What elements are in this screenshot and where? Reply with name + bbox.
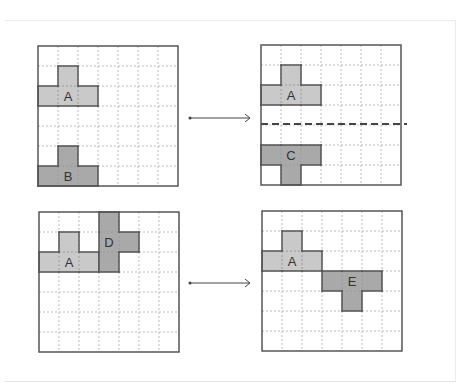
shape-label: C xyxy=(286,148,295,163)
panel-top-left: AB xyxy=(38,46,178,186)
shape-cell xyxy=(38,166,58,186)
transformation-diagram: AB AC AD AE xyxy=(0,0,470,391)
shape-cell xyxy=(262,251,282,271)
shape-cell xyxy=(302,251,322,271)
shape-cell xyxy=(99,212,119,232)
shape-cell xyxy=(301,85,321,105)
panel-bottom-right: AE xyxy=(262,211,402,351)
shape-label: D xyxy=(104,235,113,250)
shape-cell xyxy=(78,86,98,106)
panel-top-right: AC xyxy=(261,45,407,185)
shape-cell xyxy=(78,166,98,186)
shape-label: B xyxy=(64,169,73,184)
arrow-right-icon xyxy=(189,279,251,287)
shape-cell xyxy=(38,86,58,106)
shape-cell xyxy=(58,146,78,166)
shape-label: A xyxy=(288,254,297,269)
shape-cell xyxy=(342,291,362,311)
shape-cell xyxy=(281,165,301,185)
shape-cell xyxy=(261,85,281,105)
arrow-right-icon xyxy=(189,114,251,122)
shape-cell xyxy=(322,271,342,291)
shape-cell xyxy=(59,232,79,252)
arrows xyxy=(189,114,251,287)
shape-cell xyxy=(281,65,301,85)
shape-label: E xyxy=(348,274,357,289)
shape-cell xyxy=(58,66,78,86)
shape-cell xyxy=(362,271,382,291)
shape-label: A xyxy=(65,255,74,270)
panel-bottom-left: AD xyxy=(39,212,179,352)
shape-cell xyxy=(261,145,281,165)
shape-label: A xyxy=(64,89,73,104)
shape-cell xyxy=(99,252,119,272)
shape-cell xyxy=(39,252,59,272)
shape-cell xyxy=(282,231,302,251)
shape-label: A xyxy=(287,88,296,103)
shape-cell xyxy=(79,252,99,272)
shape-cell xyxy=(301,145,321,165)
shape-cell xyxy=(119,232,139,252)
